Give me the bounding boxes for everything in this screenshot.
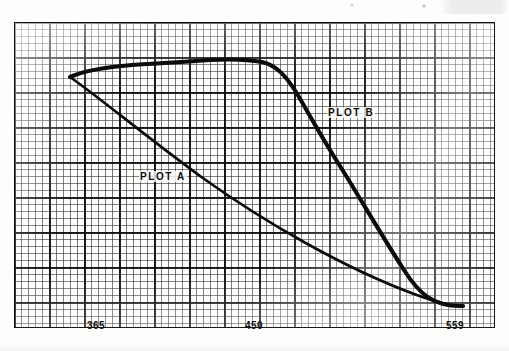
- page-bottom-edge: [0, 345, 509, 351]
- series-plot-b-line: [70, 59, 463, 306]
- x-axis-tick-label-559: 559: [446, 320, 464, 331]
- data-curves: [14, 22, 495, 328]
- scan-artifact-top: [0, 0, 509, 14]
- series-label-plot-a: PLOT A: [139, 171, 187, 182]
- x-axis-tick-label-365: 365: [87, 320, 105, 331]
- x-axis-tick-label-450: 450: [245, 320, 263, 331]
- series-label-plot-b: PLOT B: [327, 107, 375, 118]
- chart-screenshot: PLOT A PLOT B 365 450 559: [0, 0, 509, 351]
- graph-plot-area: [14, 22, 495, 328]
